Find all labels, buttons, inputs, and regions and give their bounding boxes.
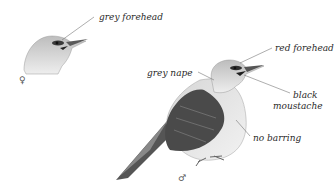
female-symbol: ♀ [19,75,26,85]
label-grey-nape: grey nape [147,68,193,78]
male-bird [116,60,264,180]
leader-grey-forehead [62,17,94,40]
male-symbol: ♂ [178,173,186,183]
label-red-forehead: red forehead [275,43,334,53]
label-no-barring: no barring [253,133,301,143]
label-black: black [293,90,318,100]
bird-illustration [0,0,335,190]
label-grey-forehead: grey forehead [99,12,163,22]
female-head [24,36,88,74]
label-moustache: moustache [273,101,323,111]
leader-red-forehead [240,48,272,63]
leader-black-moustache [244,75,290,93]
illustration-canvas: grey forehead ♀ red forehead grey nape b… [0,0,335,190]
